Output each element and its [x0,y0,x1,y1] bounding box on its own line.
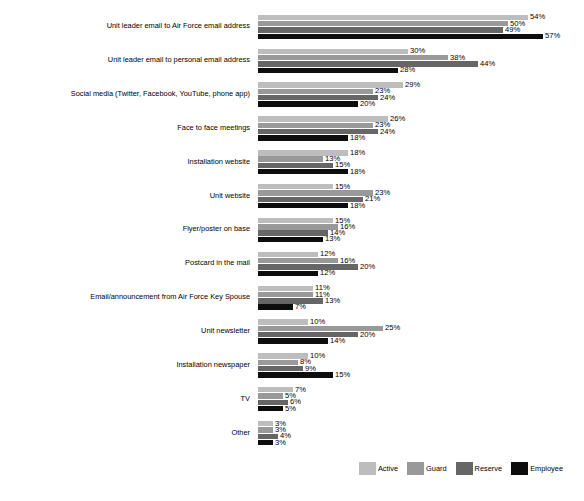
bar-employee [258,237,323,242]
category-label: Other [0,429,258,437]
bar-row: 30% [258,49,584,54]
legend-label: Reserve [475,464,503,473]
category-group: Face to face meetings26%23%24%18% [258,112,584,146]
bar-employee [258,203,348,208]
category-group: Unit leader email to Air Force email add… [258,10,584,44]
bar-row: 23% [258,89,584,94]
bar-guard [258,190,373,195]
category-label: Unit website [0,192,258,200]
legend-swatch-icon [359,462,376,475]
bar-chart: Unit leader email to Air Force email add… [0,0,584,501]
bar-row: 57% [258,34,584,39]
bar-row: 14% [258,338,584,343]
bar-value-label: 57% [543,33,560,41]
category-group: Unit website15%23%21%18% [258,179,584,213]
category-group: Social media (Twitter, Facebook, YouTube… [258,78,584,112]
bar-row: 21% [258,197,584,202]
bar-value-label: 20% [358,100,375,108]
bar-active [258,286,313,291]
bar-guard [258,55,448,60]
bar-row: 18% [258,135,584,140]
bar-row: 18% [258,150,584,155]
bar-guard [258,156,323,161]
legend-item-reserve[interactable]: Reserve [456,462,506,475]
bar-employee [258,406,283,411]
category-group: Unit newsletter10%25%20%14% [258,315,584,349]
legend-item-employee[interactable]: Employee [511,462,566,475]
bar-row: 4% [258,434,584,439]
legend-item-guard[interactable]: Guard [407,462,450,475]
category-group: Flyer/poster on base15%16%14%13% [258,213,584,247]
bar-employee [258,271,318,276]
bar-reserve [258,230,328,235]
bar-active [258,116,388,121]
bar-employee [258,135,348,140]
bar-reserve [258,163,333,168]
bar-guard [258,427,273,432]
bar-row: 15% [258,218,584,223]
bar-row: 12% [258,252,584,257]
bar-value-label: 28% [398,66,415,74]
category-label: Unit newsletter [0,327,258,335]
category-group: Installation newspaper10%8%9%15% [258,348,584,382]
bar-active [258,218,333,223]
bar-value-label: 7% [293,303,306,311]
bar-guard [258,258,338,263]
category-label: Face to face meetings [0,124,258,132]
bar-row: 11% [258,286,584,291]
bar-guard [258,224,338,229]
bar-row: 13% [258,237,584,242]
plot-area: Unit leader email to Air Force email add… [0,10,584,450]
bar-reserve [258,366,303,371]
legend-swatch-icon [511,462,528,475]
category-label: Installation website [0,158,258,166]
bar-value-label: 15% [333,371,350,379]
bar-active [258,49,408,54]
bar-row: 20% [258,101,584,106]
bar-row: 49% [258,27,584,32]
legend-label: Active [378,464,398,473]
bar-employee [258,68,398,73]
bar-row: 25% [258,326,584,331]
bar-row: 16% [258,258,584,263]
category-label: Postcard in the mail [0,259,258,267]
legend-item-active[interactable]: Active [359,462,401,475]
category-group: Postcard in the mail12%16%20%12% [258,247,584,281]
bar-row: 20% [258,264,584,269]
bar-active [258,15,528,20]
category-group: TV7%5%6%5% [258,382,584,416]
bar-guard [258,123,373,128]
bar-row: 11% [258,292,584,297]
bar-reserve [258,264,358,269]
bar-row: 9% [258,366,584,371]
legend-swatch-icon [456,462,473,475]
bar-row: 14% [258,230,584,235]
bar-employee [258,169,348,174]
bar-row: 23% [258,190,584,195]
bar-row: 24% [258,129,584,134]
bar-value-label: 3% [273,439,286,447]
bar-row: 10% [258,319,584,324]
bar-row: 28% [258,68,584,73]
bar-row: 54% [258,15,584,20]
bar-guard [258,21,508,26]
category-group: Other3%3%4%3% [258,416,584,450]
category-label: Unit leader email to Air Force email add… [0,22,258,30]
legend-swatch-icon [407,462,424,475]
category-label: Email/announcement from Air Force Key Sp… [0,293,258,301]
bar-reserve [258,61,478,66]
bar-guard [258,393,283,398]
category-label: TV [0,395,258,403]
bar-row: 44% [258,61,584,66]
bar-row: 18% [258,169,584,174]
bar-row: 26% [258,116,584,121]
bar-row: 38% [258,55,584,60]
bar-value-label: 14% [328,337,345,345]
legend-label: Employee [530,464,563,473]
bar-reserve [258,27,503,32]
bar-row: 15% [258,163,584,168]
category-group: Installation website18%13%15%18% [258,145,584,179]
bar-employee [258,34,543,39]
bar-active [258,252,318,257]
bar-row: 50% [258,21,584,26]
